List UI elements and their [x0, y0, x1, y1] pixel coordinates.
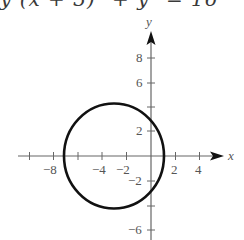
y-tick-label: 2 [136, 123, 143, 138]
y-tick-label: −2 [128, 173, 142, 188]
coordinate-plane: y x −8 −4 −2 2 4 8 6 2 −2 −6 [0, 0, 244, 240]
y-tick-label: 8 [136, 50, 143, 65]
x-axis [18, 152, 224, 161]
x-tick-label: 4 [195, 162, 202, 177]
x-tick-label: −8 [43, 162, 57, 177]
y-axis [147, 31, 156, 240]
y-axis-label: y [144, 14, 152, 29]
equation-text: y (x + 3)² + y² = 16 [0, 0, 244, 11]
x-axis-label: x [227, 148, 234, 163]
y-tick-label: 6 [136, 75, 143, 90]
y-tick-label: −6 [128, 222, 142, 237]
x-tick-label: 2 [171, 162, 178, 177]
x-tick-label: −4 [92, 162, 106, 177]
graph-figure: y (x + 3)² + y² = 16 [0, 0, 244, 240]
